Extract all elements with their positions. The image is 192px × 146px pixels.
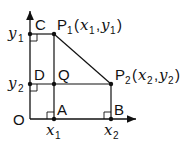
svg-text:): ) xyxy=(117,16,122,33)
svg-text:2: 2 xyxy=(147,75,153,86)
point-p1-dot xyxy=(52,32,56,36)
svg-text:x: x xyxy=(80,16,89,34)
label-a: A xyxy=(57,101,67,118)
coordinate-diagram: C D Q A B O P 1 ( x 1 , y 1 ) P 2 ( x 2 … xyxy=(0,0,192,146)
svg-text:2: 2 xyxy=(113,130,119,141)
svg-text:1: 1 xyxy=(67,25,73,36)
label-y2: y 2 xyxy=(7,74,24,94)
svg-text:y: y xyxy=(100,16,110,34)
label-b: B xyxy=(114,101,124,118)
label-p1: P 1 ( x 1 , y 1 ) xyxy=(57,16,122,36)
svg-text:,: , xyxy=(154,66,158,83)
label-o: O xyxy=(13,111,25,128)
svg-text:1: 1 xyxy=(18,33,24,44)
label-q: Q xyxy=(58,66,70,83)
point-p2-dot xyxy=(109,82,113,86)
svg-text:y: y xyxy=(7,74,17,92)
svg-text:P: P xyxy=(57,16,67,33)
svg-text:1: 1 xyxy=(89,25,95,36)
point-d-dot xyxy=(28,82,32,86)
point-c-dot xyxy=(28,32,32,36)
svg-text:): ) xyxy=(175,66,180,83)
svg-text:x: x xyxy=(138,66,147,84)
point-q-dot xyxy=(52,82,56,86)
label-x2: x 2 xyxy=(104,121,119,141)
label-p2: P 2 ( x 2 , y 2 ) xyxy=(115,66,180,86)
label-c: C xyxy=(35,16,46,33)
svg-text:y: y xyxy=(7,24,17,42)
svg-text:1: 1 xyxy=(55,130,61,141)
svg-text:1: 1 xyxy=(110,25,116,36)
svg-text:,: , xyxy=(96,16,100,33)
label-x1: x 1 xyxy=(46,121,61,141)
svg-text:x: x xyxy=(46,121,55,139)
label-d: D xyxy=(34,66,45,83)
svg-text:2: 2 xyxy=(125,75,131,86)
svg-text:(: ( xyxy=(74,16,79,33)
svg-text:P: P xyxy=(115,66,125,83)
svg-text:2: 2 xyxy=(18,83,24,94)
label-y1: y 1 xyxy=(7,24,24,44)
svg-text:(: ( xyxy=(132,66,137,83)
svg-text:2: 2 xyxy=(168,75,174,86)
svg-text:x: x xyxy=(104,121,113,139)
svg-text:y: y xyxy=(158,66,168,84)
